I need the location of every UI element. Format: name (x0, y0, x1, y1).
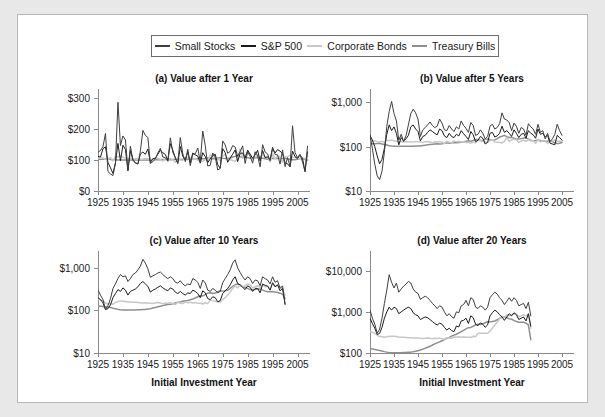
chart-panel-a: (a) Value after 1 Year$0$100$200$3001925… (54, 71, 316, 217)
chart-legend: Small StocksS&P 500Corporate BondsTreasu… (151, 35, 499, 57)
legend-label: Corporate Bonds (327, 40, 406, 52)
series-layer (54, 233, 316, 393)
chart-panel-d: (d) Value after 20 Years$100$1,000$10,00… (318, 233, 580, 393)
series-line-small-stocks (98, 102, 308, 175)
chart-panel-c: (c) Value after 10 Years$10$100$1,000192… (54, 233, 316, 393)
series-layer (318, 71, 580, 217)
legend-entry-treasury-bills: Treasury Bills (412, 40, 495, 52)
legend-line-swatch-icon (412, 45, 427, 47)
series-line-s-p-500 (370, 307, 531, 334)
legend-line-swatch-icon (155, 45, 170, 47)
legend-line-swatch-icon (241, 45, 256, 47)
series-line-small-stocks (370, 275, 531, 334)
series-line-corporate-bonds (98, 284, 285, 305)
legend-label: S&P 500 (261, 40, 302, 52)
legend-label: Small Stocks (175, 40, 236, 52)
x-axis-title: Initial Investment Year (98, 377, 310, 388)
legend-entry-s-p-500: S&P 500 (241, 40, 302, 52)
chart-panel-b: (b) Value after 5 Years$10$100$1,0001925… (318, 71, 580, 217)
figure-frame: Small StocksS&P 500Corporate BondsTreasu… (17, 14, 588, 403)
legend-entry-corporate-bonds: Corporate Bonds (307, 40, 406, 52)
series-layer (54, 71, 316, 217)
series-line-treasury-bills (98, 284, 285, 310)
series-layer (318, 233, 580, 393)
series-line-treasury-bills (370, 317, 531, 353)
legend-label: Treasury Bills (432, 40, 495, 52)
x-axis-title: Initial Investment Year (370, 377, 574, 388)
legend-line-swatch-icon (307, 45, 322, 47)
series-line-s-p-500 (370, 125, 562, 164)
legend-entry-small-stocks: Small Stocks (155, 40, 236, 52)
